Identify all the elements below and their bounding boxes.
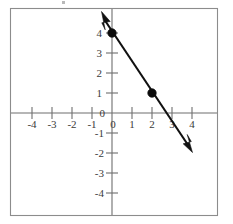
scan-speck-artifact bbox=[62, 1, 65, 4]
coordinate-plane-svg: -4 -3 -2 -1 0 1 2 3 4 4 3 2 1 0 -1 -2 -3… bbox=[0, 0, 233, 224]
x-tick-label: 2 bbox=[149, 118, 155, 130]
y-tick-label-origin: 0 bbox=[100, 107, 106, 119]
x-tick-label: 4 bbox=[189, 118, 195, 130]
y-tick-label: 2 bbox=[97, 67, 103, 79]
y-tick-label: 4 bbox=[97, 27, 103, 39]
x-tick-label: -2 bbox=[67, 118, 76, 130]
y-tick-label: -4 bbox=[95, 187, 105, 199]
graph-figure: -4 -3 -2 -1 0 1 2 3 4 4 3 2 1 0 -1 -2 -3… bbox=[0, 0, 233, 224]
y-tick-label: 3 bbox=[97, 47, 103, 59]
plot-point-2-1 bbox=[148, 89, 156, 97]
plot-point-0-4 bbox=[108, 29, 116, 37]
x-tick-label-origin: 0 bbox=[110, 118, 116, 130]
y-tick-label: -2 bbox=[95, 147, 104, 159]
y-tick-label: 1 bbox=[97, 87, 103, 99]
y-tick-label: -1 bbox=[95, 127, 104, 139]
x-tick-label: -3 bbox=[47, 118, 57, 130]
y-tick-label: -3 bbox=[95, 167, 105, 179]
x-tick-label: 1 bbox=[129, 118, 135, 130]
x-tick-label: -4 bbox=[27, 118, 37, 130]
